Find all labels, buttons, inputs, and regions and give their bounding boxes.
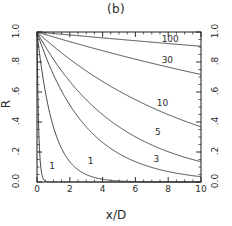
y-tick-label-left: 0.0 bbox=[11, 169, 21, 193]
y-tick-label-left: 1.0 bbox=[11, 19, 21, 43]
y-tick-label-left: .8 bbox=[11, 49, 21, 73]
figure-panel: (b) 02468100.00.0.2.2.4.4.6.6.8.81.01.0 … bbox=[0, 0, 232, 226]
y-tick-label-right: .8 bbox=[210, 49, 220, 73]
y-tick-label-right: .2 bbox=[210, 139, 220, 163]
plot-frame bbox=[37, 32, 201, 182]
x-tick-label: 10 bbox=[191, 184, 211, 194]
x-tick-label: 8 bbox=[158, 184, 178, 194]
y-tick-label-right: 1.0 bbox=[210, 19, 220, 43]
x-tick-label: 6 bbox=[125, 184, 145, 194]
x-tick-label: 2 bbox=[60, 184, 80, 194]
curve-5 bbox=[37, 32, 201, 162]
x-tick-label: 0 bbox=[27, 184, 47, 194]
y-tick-label-right: .6 bbox=[210, 79, 220, 103]
x-tick-label: 4 bbox=[93, 184, 113, 194]
curve-1 bbox=[37, 32, 201, 182]
curve-label-1: 1 bbox=[88, 156, 94, 166]
curve-label-10: 10 bbox=[157, 98, 168, 108]
x-axis-label: x/D bbox=[0, 208, 232, 222]
y-axis-label: R bbox=[0, 89, 13, 119]
y-tick-label-right: .4 bbox=[210, 109, 220, 133]
y-tick-label-right: 0.0 bbox=[210, 169, 220, 193]
curve-label-30: 30 bbox=[162, 55, 173, 65]
curve-label-3: 3 bbox=[153, 154, 159, 164]
curve-label-5: 5 bbox=[155, 127, 161, 137]
curve-label-100: 100 bbox=[162, 34, 179, 44]
curve-10 bbox=[37, 32, 201, 127]
curve-label-0.1: 1 bbox=[49, 161, 55, 171]
curve-0.1 bbox=[37, 32, 201, 182]
y-tick-label-left: .2 bbox=[11, 139, 21, 163]
